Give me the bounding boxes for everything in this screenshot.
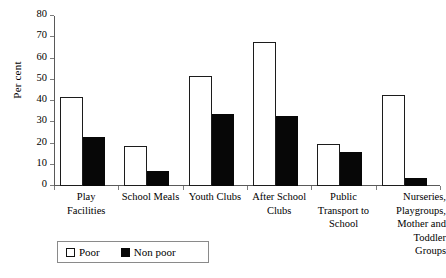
y-tick-label-70: 70 — [37, 29, 48, 41]
category-label: Nurseries,Playgroups,Mother andToddlerGr… — [370, 190, 446, 258]
bar-poor — [60, 97, 83, 186]
legend-entry-poor: Poor — [66, 246, 100, 258]
y-tick-label-40: 40 — [37, 93, 48, 105]
bar-non-poor — [340, 152, 362, 186]
plot-area: 01020304050607080 — [54, 16, 440, 186]
bar-group — [54, 16, 118, 186]
bar-non-poor — [276, 116, 298, 186]
y-tick-label-50: 50 — [37, 72, 48, 84]
bar-group — [183, 16, 247, 186]
legend-label-non-poor: Non poor — [134, 246, 176, 258]
y-axis-title: Per cent — [11, 35, 23, 125]
category-label-line: Facilities — [48, 204, 124, 218]
y-tick-label-20: 20 — [37, 136, 48, 148]
bar-poor — [124, 146, 147, 186]
legend-label-poor: Poor — [79, 246, 100, 258]
category-label-line: Nurseries, — [370, 190, 446, 204]
bar-non-poor — [147, 171, 169, 186]
bar-group — [311, 16, 375, 186]
filled-square-icon — [121, 248, 130, 257]
category-label-line: Toddler — [370, 231, 446, 245]
category-label-line: Mother and — [370, 217, 446, 231]
bar-group — [247, 16, 311, 186]
legend-entry-non-poor: Non poor — [121, 246, 176, 258]
chart-legend: Poor Non poor — [57, 241, 209, 263]
bar-poor — [189, 76, 212, 187]
empty-square-icon — [66, 248, 75, 257]
y-tick-label-0: 0 — [42, 178, 47, 190]
bar-poor — [382, 95, 405, 186]
bar-non-poor — [212, 114, 234, 186]
bar-non-poor — [405, 178, 427, 187]
y-tick-label-30: 30 — [37, 114, 48, 126]
bar-group — [118, 16, 182, 186]
bar-poor — [317, 144, 340, 187]
y-tick-label-60: 60 — [37, 51, 48, 63]
bar-non-poor — [83, 137, 105, 186]
y-tick-label-10: 10 — [37, 157, 48, 169]
category-label-line: Playgroups, — [370, 204, 446, 218]
category-label-line: Groups — [370, 244, 446, 258]
bar-poor — [253, 42, 276, 187]
bar-group — [376, 16, 440, 186]
y-tick-label-80: 80 — [37, 8, 48, 20]
